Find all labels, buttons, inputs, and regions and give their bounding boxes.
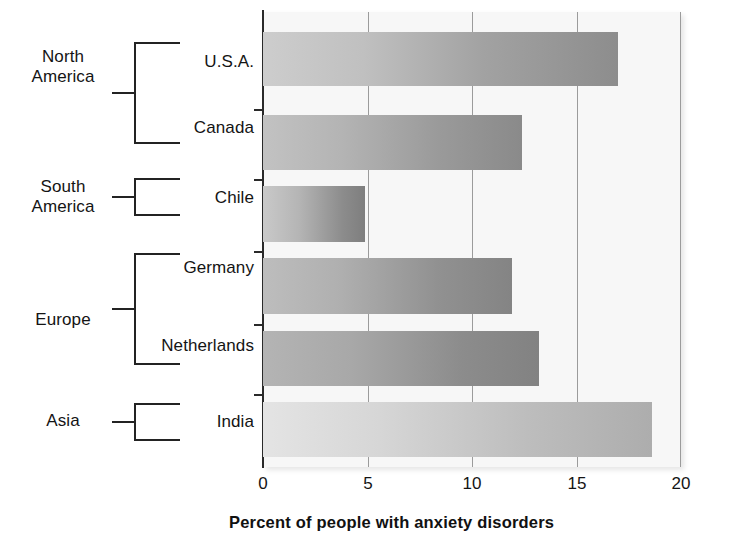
y-axis-tick [254, 109, 263, 111]
bar-canada [263, 115, 522, 170]
x-axis-title: Percent of people with anxiety disorders [229, 513, 554, 532]
bracket-arm-top [134, 178, 180, 180]
bracket-stem [112, 308, 134, 310]
category-label-usa: U.S.A. [56, 52, 254, 71]
bracket-arm-top [134, 42, 180, 44]
plot-area [263, 12, 681, 467]
xtick-label-15: 15 [557, 474, 597, 494]
anxiety-disorders-bar-chart: North America South America Europe Asia … [0, 0, 729, 553]
y-axis-tick [254, 324, 263, 326]
bar-india [263, 402, 652, 457]
bar-chile [263, 186, 365, 242]
y-axis-tick [254, 394, 263, 396]
bar-usa [263, 32, 618, 86]
gridline-20 [680, 12, 681, 467]
xtick-label-20: 20 [661, 474, 701, 494]
bracket-stem [112, 92, 134, 94]
category-label-netherlands: Netherlands [56, 336, 254, 355]
y-axis-tick [254, 179, 263, 181]
bracket-arm-bottom [134, 363, 180, 365]
bracket-arm-top [134, 253, 180, 255]
category-label-india: India [56, 412, 254, 431]
xtick-label-0: 0 [243, 474, 283, 494]
xtick-label-5: 5 [348, 474, 388, 494]
category-label-germany: Germany [56, 258, 254, 277]
y-axis-tick [254, 251, 263, 253]
bracket-arm-bottom [134, 142, 180, 144]
category-label-canada: Canada [56, 118, 254, 137]
bar-germany [263, 258, 512, 314]
region-label-europe: Europe [18, 310, 108, 330]
category-label-chile: Chile [56, 188, 254, 207]
bracket-arm-bottom [134, 439, 180, 441]
bar-netherlands [263, 331, 539, 386]
bracket-arm-bottom [134, 214, 180, 216]
xtick-label-10: 10 [452, 474, 492, 494]
bracket-arm-top [134, 403, 180, 405]
